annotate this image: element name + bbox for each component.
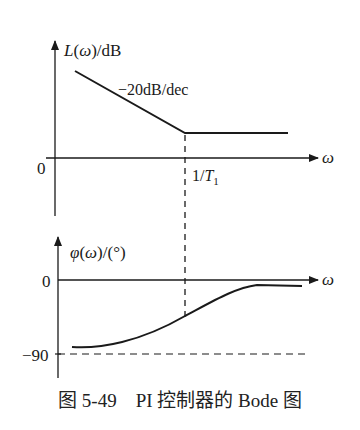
phase-curve [72,285,302,347]
figure-caption: 图 5-49 PI 控制器的 Bode 图 [0,385,360,412]
magnitude-omega-label: ω [322,148,334,167]
origin-label: 0 [37,159,46,178]
phase-zero-label: 0 [42,272,51,291]
magnitude-y-label: L(ω)/dB [63,41,121,60]
slope-annotation: −20dB/dec [118,81,188,98]
phase-omega-label: ω [322,270,334,289]
magnitude-plot: L(ω)/dB −20dB/dec 0 ω 1/T1 [37,41,334,216]
phase-plot: φ(ω)/(°) 0 −90 ω [22,237,334,378]
bode-diagram: L(ω)/dB −20dB/dec 0 ω 1/T1 φ(ω)/(°) 0 −9… [0,0,360,430]
phase-y-label: φ(ω)/(°) [70,243,126,262]
corner-frequency-label: 1/T1 [192,167,219,187]
phase-minus-90-label: −90 [22,346,49,365]
